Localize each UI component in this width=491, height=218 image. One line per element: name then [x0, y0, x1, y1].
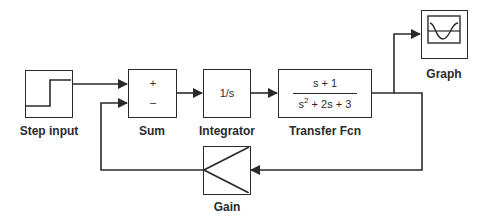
integrator-label: Integrator	[192, 124, 262, 138]
sum-minus-sign: –	[146, 96, 160, 108]
integrator-block[interactable]: 1/s	[203, 69, 251, 118]
sum-label: Sum	[122, 124, 182, 138]
wire-tf-to-graph	[371, 34, 420, 93]
transfer-fcn-block[interactable]: s + 1 s2 + 2s + 3	[278, 69, 372, 118]
sum-block[interactable]: + –	[128, 69, 177, 118]
tf-denominator: s2 + 2s + 3	[279, 96, 371, 110]
gain-block[interactable]	[203, 146, 251, 195]
transfer-fcn-label: Transfer Fcn	[280, 124, 370, 138]
step-input-label: Step input	[10, 124, 88, 138]
step-signal-icon	[26, 71, 71, 116]
graph-block[interactable]	[421, 10, 468, 59]
gain-triangle-icon	[204, 147, 249, 193]
tf-numerator: s + 1	[279, 77, 371, 89]
graph-label: Graph	[414, 67, 474, 81]
step-input-block[interactable]	[25, 70, 73, 118]
tf-fraction-bar	[293, 93, 357, 94]
sum-plus-sign: +	[146, 77, 160, 89]
integrator-content: 1/s	[204, 87, 250, 99]
scope-sine-icon	[422, 11, 466, 57]
gain-label: Gain	[197, 200, 257, 214]
